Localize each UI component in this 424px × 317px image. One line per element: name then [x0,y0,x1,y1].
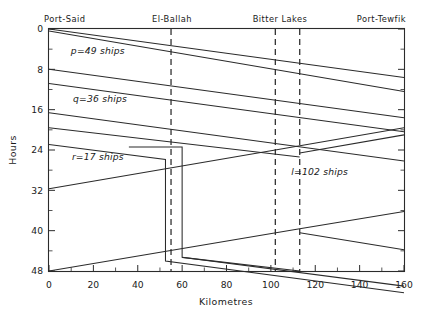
plot-frame [49,29,405,272]
x-axis-title: Kilometres [199,296,253,307]
convoy-count-annotation: p=49 ships [70,45,125,56]
y-axis-ticks [49,29,404,271]
y-axis-title: Hours [7,135,18,164]
x-tick-label: 80 [221,279,233,290]
x-tick-label: 160 [395,279,413,290]
x-tick-label: 60 [176,279,188,290]
x-tick-label: 0 [46,279,52,290]
convoy-trajectory-line [182,257,300,271]
y-axis-tick-labels: 081624324048 [31,23,43,276]
y-tick-label: 40 [31,225,43,236]
convoy-diagram-svg: Port-Said El-Ballah Bitter Lakes Port-Te… [0,0,424,317]
y-tick-label: 48 [31,265,43,276]
y-tick-label: 0 [37,23,43,34]
convoy-trajectory-line [300,135,404,153]
station-label-bitter-lakes: Bitter Lakes [253,14,308,24]
convoy-count-annotation: r=17 ships [72,151,124,162]
y-tick-label: 32 [31,185,43,196]
y-tick-label: 8 [37,64,43,75]
x-tick-label: 100 [262,279,280,290]
convoy-trajectory-line [49,31,404,91]
y-tick-label: 24 [31,144,43,155]
y-tick-label: 16 [31,104,43,115]
convoy-trajectory-line [300,233,404,250]
chart-figure: Port-Said El-Ballah Bitter Lakes Port-Te… [0,0,424,317]
station-label-port-tewfik: Port-Tewfik [357,14,406,24]
station-label-el-ballah: El-Ballah [152,14,192,24]
chart-annotations: p=49 shipsq=36 shipsr=17 shipsl=102 ship… [70,45,348,177]
convoy-count-annotation: q=36 ships [73,93,127,104]
x-tick-label: 40 [132,279,144,290]
station-labels: Port-Said El-Ballah Bitter Lakes Port-Te… [44,14,406,24]
convoy-count-annotation: l=102 ships [291,166,348,177]
x-tick-label: 20 [88,279,100,290]
station-label-port-said: Port-Said [44,14,85,24]
convoy-trajectory-line [49,83,404,131]
x-axis-ticks [49,265,404,271]
